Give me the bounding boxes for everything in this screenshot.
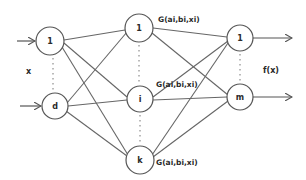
node-label: m [236,93,244,102]
hidden-output-connections [152,28,228,157]
node-label: 1 [237,34,243,43]
input-label: x [26,67,32,76]
neural-network-diagram: 1 d 1 i k 1 m G(ai,bi,xi) G(ai,bi,xi) G(… [0,0,306,180]
input-hidden-connections [62,30,128,156]
node-label: i [139,95,142,104]
node-label: 1 [136,24,142,33]
activation-label-h1: G(ai,bi,xi) [158,15,200,24]
output-label: f(x) [263,66,279,75]
activation-label-hk: G(ai,bi,xi) [156,158,198,167]
input-node-d: d [42,93,68,119]
node-label: d [52,102,58,111]
node-label: 1 [47,37,53,46]
output-node-1: 1 [227,25,253,51]
activation-label-hi: G(ai,bi,xi) [156,80,198,89]
node-label: k [137,156,143,165]
output-node-m: m [227,84,253,110]
diagram-svg: 1 d 1 i k 1 m G(ai,bi,xi) G(ai,bi,xi) G(… [0,0,306,180]
hidden-node-1: 1 [125,14,153,42]
input-node-1: 1 [36,27,64,55]
hidden-node-i: i [127,86,153,112]
hidden-node-k: k [126,146,154,174]
